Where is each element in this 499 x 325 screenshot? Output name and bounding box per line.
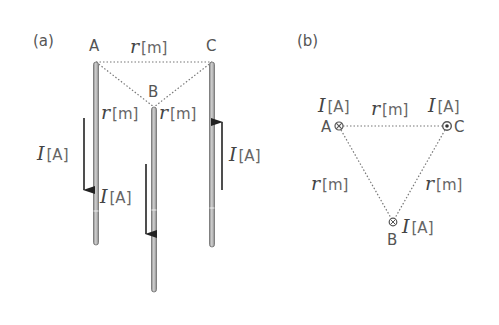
wire-a [94,62,99,245]
distance-line-ab [341,130,391,218]
current-label-a: I[A] [317,94,349,116]
distance-label-bc: r[m] [425,172,462,194]
panel-a: (a) A C B r[m] r[m] r[m] I[A [33,32,260,292]
panel-b-label: (b) [297,32,318,50]
current-label-a: I[A] [36,142,68,164]
svg-text:r[m]: r[m] [130,35,167,57]
wire-a-label: A [89,37,100,55]
point-c-label: C [454,118,464,136]
current-into-page-icon-b [389,218,397,226]
wire-c-label: C [206,37,216,55]
current-label-b: I[A] [99,185,131,207]
distance-line-bc [395,130,445,218]
svg-text:I[A]: I[A] [228,143,260,165]
svg-text:I[A]: I[A] [317,94,349,116]
current-label-c: I[A] [427,94,459,116]
current-out-of-page-icon-c [443,122,452,131]
svg-text:r[m]: r[m] [159,101,196,123]
distance-label-ac: r[m] [130,35,167,57]
svg-text:r[m]: r[m] [311,172,348,194]
current-label-c: I[A] [228,143,260,165]
diagram-canvas: (a) A C B r[m] r[m] r[m] I[A [0,0,499,325]
distance-label-ab: r[m] [311,172,348,194]
svg-text:I[A]: I[A] [401,215,433,237]
panel-a-label: (a) [33,32,54,50]
current-into-page-icon-a [335,122,343,130]
wire-c [210,62,215,247]
svg-text:r[m]: r[m] [101,101,138,123]
svg-text:r[m]: r[m] [371,97,408,119]
distance-label-bc: r[m] [159,101,196,123]
panel-b: (b) A C B I[A] I[A] [297,32,464,249]
distance-label-ac: r[m] [371,97,408,119]
wire-b [152,107,157,292]
svg-text:r[m]: r[m] [425,172,462,194]
distance-label-ab: r[m] [101,101,138,123]
svg-text:I[A]: I[A] [99,185,131,207]
current-label-b: I[A] [401,215,433,237]
point-b-label: B [387,231,397,249]
point-a-label: A [321,118,332,136]
svg-text:I[A]: I[A] [36,142,68,164]
svg-text:I[A]: I[A] [427,94,459,116]
wire-b-label: B [148,83,158,101]
